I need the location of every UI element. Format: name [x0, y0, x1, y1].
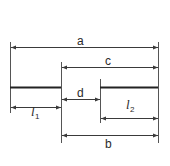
label-c: c	[105, 54, 111, 68]
label-l2-subscript: 2	[130, 105, 135, 114]
label-b: b	[105, 137, 112, 151]
label-d: d	[77, 86, 84, 100]
label-a: a	[77, 34, 84, 48]
label-l1-subscript: 1	[35, 112, 40, 121]
dimension-diagram: a c d b l 1 l 2	[0, 0, 170, 166]
